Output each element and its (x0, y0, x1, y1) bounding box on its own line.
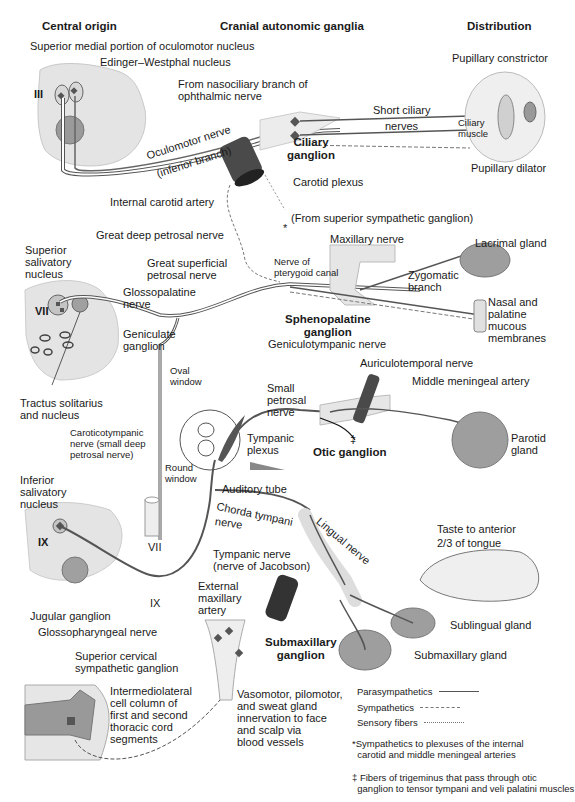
label-external-maxillary-artery: External maxillary artery (198, 580, 241, 616)
label-superior-medial-oculomotor: Superior medial portion of oculomotor nu… (30, 40, 254, 52)
label-nerve-pterygoid-canal: Nerve of pterygoid canal (274, 256, 338, 278)
label-star-1: * (283, 222, 287, 234)
label-short-ciliary: Short ciliary (373, 104, 430, 116)
legend-label: Sensory fibers (357, 717, 418, 728)
midbrain-shape (38, 64, 146, 166)
label-from-superior-sympathetic: (From superior sympathetic ganglion) (291, 212, 473, 224)
label-roman-iii: III (34, 88, 43, 100)
header-central-origin: Central origin (42, 20, 117, 32)
label-taste: Taste to anterior (437, 523, 516, 535)
legend-line-dotted (424, 722, 464, 723)
label-nasal-palatine-membranes: Nasal and palatine mucous membranes (488, 296, 546, 344)
legend-line-solid (439, 691, 479, 692)
label-great-deep-petrosal: Great deep petrosal nerve (96, 229, 224, 241)
legend-label: Parasympathetics (357, 686, 433, 697)
header-distribution: Distribution (467, 20, 532, 32)
label-inferior-salivatory: Inferior salivatory nucleus (20, 474, 66, 510)
label-roman-ix-b: IX (150, 597, 160, 609)
label-nasociliary: From nasociliary branch of ophthalmic ne… (178, 78, 308, 102)
legend-parasympathetics: Parasympathetics (357, 686, 479, 697)
label-submaxillary-ganglion: Submaxillary ganglion (265, 636, 337, 662)
label-middle-meningeal-artery: Middle meningeal artery (412, 375, 529, 387)
label-maxillary-nerve: Maxillary nerve (330, 233, 404, 245)
label-tympanic-nerve: Tympanic nerve (nerve of Jacobson) (213, 548, 310, 572)
label-pupillary-constrictor: Pupillary constrictor (452, 52, 548, 64)
legend-sensory: Sensory fibers (357, 717, 464, 728)
label-round-window: Round window (165, 462, 197, 484)
label-auriculotemporal-nerve: Auriculotemporal nerve (360, 357, 473, 369)
label-small-petrosal-nerve: Small petrosal nerve (267, 382, 306, 418)
label-oval-window: Oval window (170, 365, 202, 387)
label-glossopharyngeal-nerve: Glossopharyngeal nerve (38, 626, 157, 638)
header-cranial-ganglia: Cranial autonomic ganglia (220, 20, 364, 32)
label-taste-two-thirds: 2/3 of tongue (437, 537, 501, 549)
label-geniculotympanic-nerve: Geniculotympanic nerve (268, 338, 386, 350)
label-roman-vii: VII (35, 305, 48, 317)
label-great-superficial-petrosal: Great superficial petrosal nerve (147, 257, 227, 281)
label-tympanic-plexus: Tympanic plexus (247, 432, 294, 456)
label-superior-cervical-ganglion: Superior cervical sympathetic ganglion (75, 650, 178, 674)
label-roman-vii-b: VII (148, 541, 161, 553)
legend-label: Sympathetics (357, 702, 414, 713)
label-carotid-plexus: Carotid plexus (293, 176, 363, 188)
label-edinger-westphal: Edinger–Westphal nucleus (100, 56, 231, 68)
label-ciliary-muscle: Ciliary muscle (458, 117, 488, 139)
label-vasomotor: Vasomotor, pilomotor, and sweat gland in… (237, 688, 343, 748)
note-sympathetics-plexuses: *Sympathetics to plexuses of the interna… (352, 738, 524, 760)
legend-line-dashed (420, 707, 460, 708)
legend-sympathetics: Sympathetics (357, 702, 460, 713)
label-otic-ganglion: Otic ganglion (313, 446, 386, 459)
label-lacrimal-gland: Lacrimal gland (475, 237, 547, 249)
label-ciliary-ganglion: Ciliary ganglion (287, 136, 335, 162)
label-glossopalatine-nerve: Glossopalatine nerve (123, 286, 196, 310)
label-roman-ix: IX (38, 536, 48, 548)
label-nerves: nerves (385, 120, 418, 132)
label-jugular-ganglion: Jugular ganglion (30, 610, 111, 622)
label-intermediolateral: Intermediolateral cell column of first a… (110, 685, 192, 745)
label-zygomatic-branch: Zygomatic branch (408, 269, 459, 293)
label-submaxillary-gland: Submaxillary gland (414, 649, 507, 661)
label-parotid-gland: Parotid gland (511, 432, 546, 456)
label-pupillary-dilator: Pupillary dilator (471, 162, 546, 174)
label-geniculate-ganglion: Geniculate ganglion (123, 328, 176, 352)
label-dagger: ‡ (350, 433, 356, 445)
note-trigeminus-fibers: ‡ Fibers of trigeminus that pass through… (352, 772, 574, 794)
label-superior-salivatory: Superior salivatory nucleus (25, 244, 71, 280)
label-caroticotympanic-nerve: Caroticotympanic nerve (small deep petro… (70, 427, 146, 460)
label-internal-carotid-artery: Internal carotid artery (110, 196, 214, 208)
label-tractus-solitarius: Tractus solitarius and nucleus (20, 397, 103, 421)
label-auditory-tube: Auditory tube (222, 483, 287, 495)
label-sphenopalatine-ganglion: Sphenopalatine ganglion (285, 313, 371, 339)
label-sublingual-gland: Sublingual gland (450, 619, 531, 631)
